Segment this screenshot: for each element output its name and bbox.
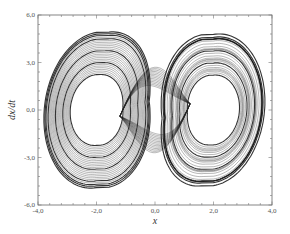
x-tick-label: -4,0	[32, 207, 44, 215]
y-axis-title: dx/dt	[6, 100, 17, 120]
x-tick-label: -2,0	[91, 207, 103, 215]
x-axis-title: x	[152, 215, 158, 226]
x-tick-label: 0,0	[151, 207, 160, 215]
y-tick-label: 3,0	[26, 59, 35, 67]
x-tick-label: 2,0	[209, 207, 218, 215]
x-tick-label: 4,0	[268, 207, 277, 215]
trajectory-group	[44, 32, 265, 188]
y-tick-label: 0,0	[26, 106, 35, 114]
y-tick-label: -3,0	[24, 154, 36, 162]
trajectory-path	[70, 75, 123, 146]
phase-portrait-chart: 6,0 3,0 0,0 -3,0 -6,0 -4,0 -2,0 0,0 2,0 …	[0, 0, 290, 234]
y-tick-label: 6,0	[26, 11, 35, 19]
trajectory-path	[187, 75, 239, 145]
